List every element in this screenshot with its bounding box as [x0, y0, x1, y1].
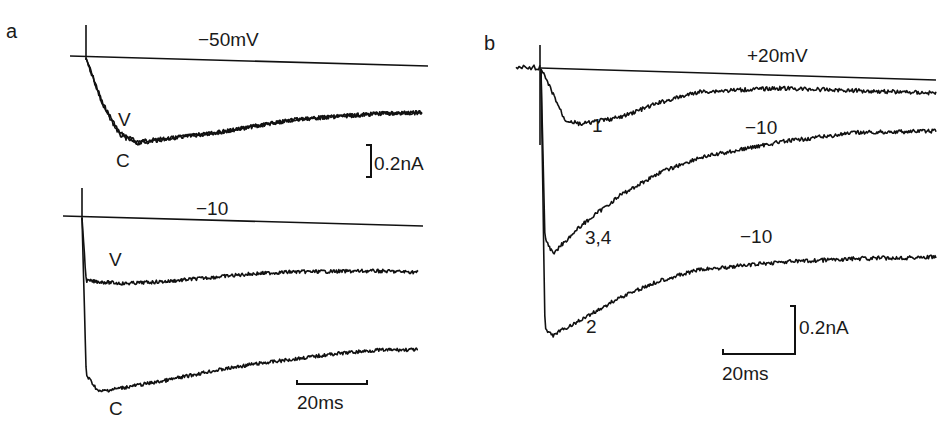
zero-current-line: [63, 216, 423, 226]
trace-a-bottom-C: [82, 218, 418, 392]
time-scale-bar: [297, 380, 367, 384]
trace-label-2: 2: [586, 316, 597, 337]
trace-b-2: [541, 69, 936, 337]
current-scale-bar: [366, 145, 371, 177]
figure: a −50mV V C 0.2nA −10 V C 20ms: [0, 0, 944, 443]
step-label-minus10-b: −10: [740, 226, 772, 247]
voltage-label-minus50: −50mV: [198, 29, 259, 50]
time-scale-label: 20ms: [297, 392, 343, 413]
voltage-label-plus20: +20mV: [747, 45, 808, 66]
scale-bar-l-shape: [723, 306, 795, 354]
trace-a-top-V: [86, 58, 422, 143]
trace-label-C: C: [109, 398, 123, 419]
step-label-minus10-a: −10: [745, 117, 777, 138]
current-scale-label: 0.2nA: [374, 153, 424, 174]
panel-b-letter: b: [484, 32, 495, 54]
panel-a-top: −50mV V C 0.2nA: [70, 25, 428, 177]
voltage-label-minus10: −10: [196, 198, 228, 219]
time-scale-label: 20ms: [722, 363, 768, 384]
current-scale-label: 0.2nA: [799, 317, 849, 338]
trace-a-bottom-V: [82, 218, 418, 285]
zero-current-line: [70, 56, 428, 66]
trace-label-V: V: [118, 109, 131, 130]
trace-label-3-4: 3,4: [585, 227, 612, 248]
panel-a: a −50mV V C 0.2nA −10 V C 20ms: [6, 20, 428, 419]
pre-stimulus-baseline: [516, 65, 540, 70]
trace-label-1: 1: [592, 115, 603, 136]
trace-a-top-C: [86, 58, 422, 145]
panel-a-letter: a: [6, 20, 18, 42]
zero-current-line: [540, 68, 936, 80]
panel-b: b +20mV 1 −10 3,4 −10 2 0.2nA 20ms: [484, 32, 936, 384]
trace-label-V: V: [109, 249, 122, 270]
panel-a-bottom: −10 V C 20ms: [63, 188, 423, 419]
trace-label-C: C: [116, 150, 130, 171]
